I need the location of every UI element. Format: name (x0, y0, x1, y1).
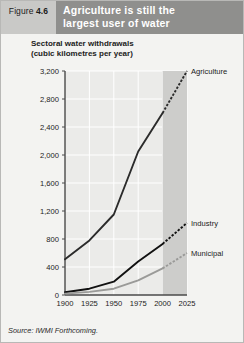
series-labels-layer: AgricultureIndustryMunicipal (191, 67, 227, 258)
series-label-municipal: Municipal (191, 249, 223, 258)
figure-panel: Figure 4.6 Agriculture is still the larg… (0, 0, 244, 343)
ytick-labels-layer: 04008001,2001,6002,0002,4002,8003,200 (40, 67, 59, 300)
series-label-industry: Industry (191, 219, 218, 228)
y-tick-label-8: 3,200 (40, 67, 59, 76)
chart-area: 04008001,2001,6002,0002,4002,8003,200 19… (1, 1, 244, 343)
xtick-labels-layer: 190019251950197520002025 (57, 299, 196, 308)
y-tick-label-1: 400 (46, 263, 59, 272)
line-chart-svg: 04008001,2001,6002,0002,4002,8003,200 19… (1, 1, 244, 343)
y-tick-label-7: 2,800 (40, 95, 59, 104)
y-tick-label-4: 1,600 (40, 179, 59, 188)
x-tick-label-1: 1925 (81, 299, 98, 308)
x-tick-label-2: 1950 (105, 299, 122, 308)
x-tick-label-4: 2000 (154, 299, 171, 308)
source-note: Source: IWMI Forthcoming. (8, 326, 98, 335)
y-tick-label-2: 800 (46, 235, 59, 244)
y-tick-label-3: 1,200 (40, 207, 59, 216)
y-tick-label-6: 2,400 (40, 123, 59, 132)
x-tick-label-0: 1900 (57, 299, 74, 308)
source-note-text: Source: IWMI Forthcoming. (8, 326, 98, 335)
series-label-agriculture: Agriculture (191, 67, 227, 76)
x-tick-label-5: 2025 (179, 299, 196, 308)
x-tick-label-3: 1975 (130, 299, 147, 308)
y-tick-label-5: 2,000 (40, 151, 59, 160)
